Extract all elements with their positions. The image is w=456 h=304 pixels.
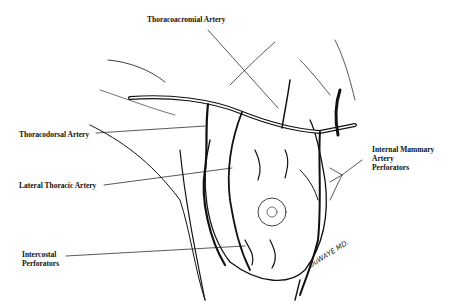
label-line: Perforators <box>372 163 434 172</box>
label-internal-mammary-perforators: Internal Mammary Artery Perforators <box>372 145 434 172</box>
label-line: Intercostal <box>22 250 59 259</box>
label-line: Internal Mammary <box>372 145 434 154</box>
label-line: Perforators <box>22 259 59 268</box>
label-lateral-thoracic-artery: Lateral Thoracic Artery <box>19 181 96 190</box>
breast-blood-supply-illustration: Thoracoacromial Artery Thoracodorsal Art… <box>0 0 456 304</box>
label-thoracodorsal-artery: Thoracodorsal Artery <box>19 130 89 139</box>
label-thoracoacromial-artery: Thoracoacromial Artery <box>147 15 225 24</box>
label-intercostal-perforators: Intercostal Perforators <box>22 250 59 268</box>
label-line: Artery <box>372 154 434 163</box>
